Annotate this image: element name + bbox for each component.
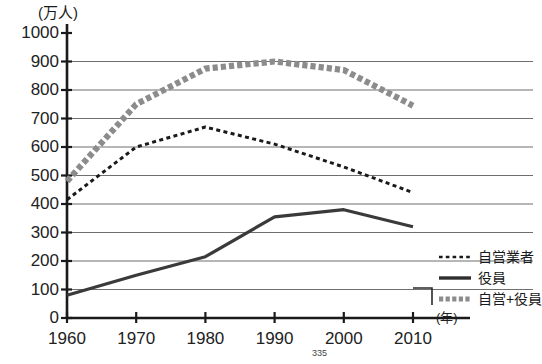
chart-legend: 自営業者 役員 自営+役員 — [438, 246, 540, 309]
series-line-executives — [67, 210, 413, 296]
dotted-line-swatch — [438, 251, 472, 263]
legend-label-self-employed: 自営業者 — [478, 250, 534, 264]
legend-connector — [413, 288, 432, 305]
legend-item-self-employed[interactable]: 自営業者 — [438, 246, 540, 267]
legend-label-combined: 自営+役員 — [478, 292, 542, 306]
legend-item-executives[interactable]: 役員 — [438, 267, 540, 288]
series-line-self-employed — [67, 127, 413, 200]
series-line-combined — [67, 62, 413, 182]
legend-label-executives: 役員 — [478, 271, 506, 285]
solid-line-swatch — [438, 272, 472, 284]
legend-item-combined[interactable]: 自営+役員 — [438, 288, 540, 309]
figure-caption-cropped — [0, 349, 540, 364]
thick-dashed-line-swatch — [438, 293, 472, 305]
